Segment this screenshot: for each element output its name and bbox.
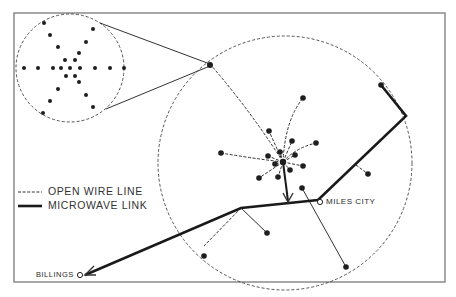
network-diagram: [0, 0, 456, 297]
miles-city-marker: [317, 199, 322, 204]
billings-label: BILLINGS: [36, 270, 74, 279]
legend-microwave-label: MICROWAVE LINK: [48, 199, 147, 211]
inset-nodes: [22, 21, 126, 115]
miles-city-label: MILES CITY: [326, 197, 375, 206]
microwave-link: [85, 85, 406, 275]
legend-open-wire-label: OPEN WIRE LINE: [48, 185, 143, 197]
billings-marker: [77, 272, 82, 277]
inset-magnified-view: [16, 14, 210, 122]
